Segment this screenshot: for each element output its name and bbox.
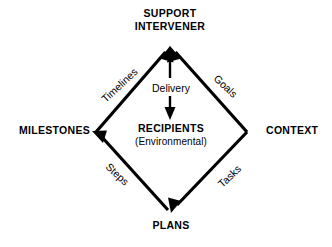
- node-recipients-label: RECIPIENTS: [138, 122, 204, 134]
- node-milestones: MILESTONES: [4, 124, 90, 137]
- node-context-label: CONTEXT: [266, 124, 318, 136]
- edge-label-delivery: Delivery: [141, 82, 201, 94]
- node-support-intervener-line1: SUPPORT: [144, 7, 197, 19]
- node-recipients-subtitle: (Environmental): [135, 136, 207, 147]
- node-plans: PLANS: [136, 219, 206, 232]
- node-recipients: RECIPIENTS(Environmental): [111, 122, 231, 148]
- node-context: CONTEXT: [266, 124, 332, 137]
- diagram-canvas: SUPPORTINTERVENER MILESTONES CONTEXT PLA…: [0, 0, 332, 247]
- node-plans-label: PLANS: [152, 219, 189, 231]
- node-support-intervener: SUPPORTINTERVENER: [110, 7, 230, 32]
- node-support-intervener-line2: INTERVENER: [135, 20, 206, 32]
- node-milestones-label: MILESTONES: [19, 124, 90, 136]
